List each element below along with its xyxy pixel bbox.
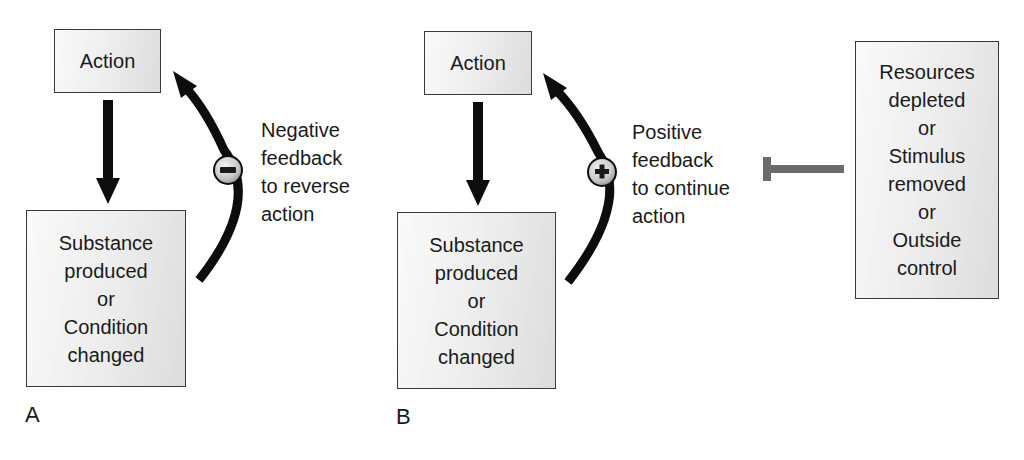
panel-letter-b: B <box>396 404 411 430</box>
down-arrow-icon-a <box>96 100 120 204</box>
result-line: Substance <box>429 231 524 259</box>
panel-letter-a: A <box>25 402 40 428</box>
feedback-line: to continue <box>632 174 730 202</box>
feedback-line: to reverse <box>261 172 350 200</box>
feedback-line: Positive <box>632 118 730 146</box>
inhibitor-box: Resources depleted or Stimulus removed o… <box>855 41 999 299</box>
down-arrow-icon-b <box>466 102 490 206</box>
action-box-a: Action <box>54 29 161 93</box>
positive-feedback-label: Positive feedback to continue action <box>632 118 730 230</box>
inhibitor-line: Resources <box>879 58 975 86</box>
result-box-a: Substance produced or Condition changed <box>26 210 186 387</box>
result-line: or <box>59 285 154 313</box>
feedback-line: Negative <box>261 116 350 144</box>
result-line: changed <box>429 343 524 371</box>
feedback-line: action <box>632 202 730 230</box>
plus-badge-icon <box>588 158 616 186</box>
result-line: produced <box>429 259 524 287</box>
result-line: produced <box>59 257 154 285</box>
result-line: Substance <box>59 229 154 257</box>
result-line: Condition <box>429 315 524 343</box>
feedback-line: feedback <box>632 146 730 174</box>
inhibition-bar-icon <box>763 157 844 181</box>
inhibitor-line: depleted <box>879 86 975 114</box>
result-box-b: Substance produced or Condition changed <box>397 212 556 389</box>
inhibitor-line: or <box>879 114 975 142</box>
minus-badge-icon <box>214 156 242 184</box>
inhibitor-line: removed <box>879 170 975 198</box>
result-line: Condition <box>59 313 154 341</box>
inhibitor-line: Outside <box>879 226 975 254</box>
result-line: or <box>429 287 524 315</box>
negative-feedback-label: Negative feedback to reverse action <box>261 116 350 228</box>
inhibitor-line: Stimulus <box>879 142 975 170</box>
result-line: changed <box>59 341 154 369</box>
action-label-b: Action <box>450 49 506 77</box>
inhibitor-line: or <box>879 198 975 226</box>
action-box-b: Action <box>424 31 532 95</box>
feedback-line: action <box>261 200 350 228</box>
feedback-line: feedback <box>261 144 350 172</box>
action-label-a: Action <box>80 47 136 75</box>
inhibitor-line: control <box>879 254 975 282</box>
